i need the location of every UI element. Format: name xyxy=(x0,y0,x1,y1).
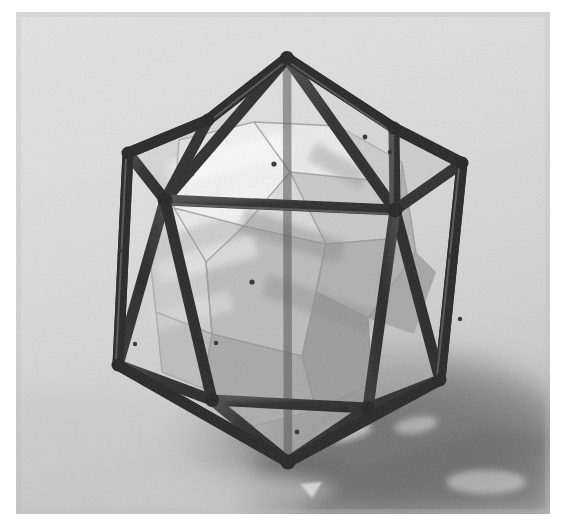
film-grain-coarse xyxy=(16,12,550,514)
polyhedron-photo-svg xyxy=(16,12,550,514)
photo-print-page: Icosahedron frame enclosing a dodecahedr… xyxy=(0,0,562,528)
photograph-image xyxy=(16,12,550,514)
